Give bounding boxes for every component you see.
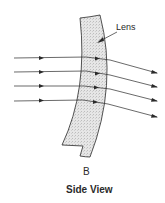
arrow-icon [39, 56, 44, 60]
arrow-icon [39, 84, 44, 88]
figure-caption: Side View [66, 184, 113, 195]
arrow-icon [151, 98, 158, 102]
arrow-icon [39, 99, 44, 103]
lens-label: Lens [116, 22, 136, 32]
arrow-icon [39, 70, 44, 74]
arrow-icon [151, 70, 158, 74]
arrow-icon [151, 114, 158, 118]
figure-letter: B [83, 166, 90, 177]
arrow-icon [151, 84, 158, 88]
